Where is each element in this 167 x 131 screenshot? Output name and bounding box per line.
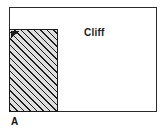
cliff-label: Cliff — [84, 27, 104, 39]
figure-panel-a: Cliff A — [0, 0, 167, 131]
hatched-cliff-mass — [9, 29, 58, 112]
panel-letter-label: A — [11, 116, 18, 128]
corner-wedge-shading — [11, 31, 20, 39]
